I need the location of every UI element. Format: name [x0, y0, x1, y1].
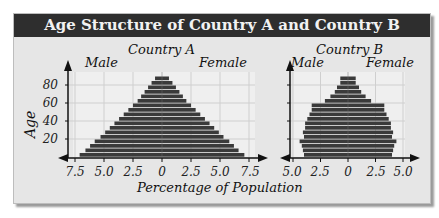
plot-area — [0, 0, 439, 218]
